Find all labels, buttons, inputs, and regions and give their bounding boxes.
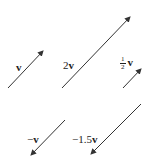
vector-v-arrow: [8, 51, 43, 88]
label-neg-1.5v-vec: v: [92, 133, 98, 145]
label-2v: 2v: [63, 60, 74, 71]
label-v: v: [16, 62, 22, 73]
label-half-v: 1 2 v: [120, 56, 133, 71]
label-neg-v: −v: [27, 134, 39, 145]
label-half-v-fraction: 1 2: [120, 56, 126, 71]
label-2v-vec: v: [69, 59, 75, 71]
label-half-v-vec: v: [128, 56, 134, 68]
label-neg-1.5v-coef: −1.5: [72, 133, 92, 145]
label-neg-v-vec: v: [33, 133, 39, 145]
label-neg-1.5v: −1.5v: [72, 134, 97, 145]
vector-2v-arrow: [62, 17, 130, 88]
label-v-vec: v: [16, 61, 22, 73]
fraction-denominator: 2: [120, 64, 126, 71]
vector-neg-1.5v-arrow: [91, 104, 141, 154]
vector-half-v-arrow: [123, 69, 141, 88]
